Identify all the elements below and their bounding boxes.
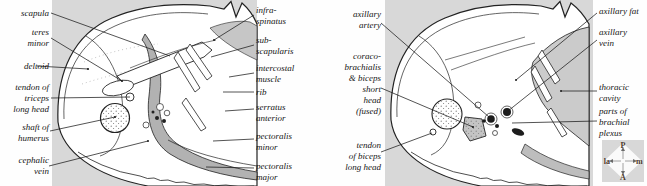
label-axillary-vein: axillary vein	[599, 27, 647, 49]
compass-posterior-label: P	[621, 141, 626, 150]
label-brachial-plexus: parts of brachial plexus	[599, 106, 647, 139]
biceps-tendon-section	[430, 129, 436, 135]
label-coracobrachialis: coraco- brachialis & biceps short head (…	[298, 51, 381, 117]
plexus-part-2	[495, 124, 499, 128]
panel-left-illustration	[52, 0, 257, 186]
compass-anterior-label: A	[620, 173, 626, 182]
plexus-part-3	[482, 119, 486, 123]
label-axillary-fat: axillary fat	[599, 6, 647, 17]
figure-axilla-cross-sections: P A la m scapula teres minor deltoid ten…	[0, 0, 647, 186]
label-teres-minor: teres minor	[0, 27, 49, 49]
label-cephalic-vein: cephalic vein	[0, 155, 49, 177]
compass-lateral-label: la	[604, 157, 610, 166]
label-tendon-of-biceps: tendon of biceps long head	[298, 140, 381, 173]
humerus-stipple	[433, 100, 461, 128]
label-shaft-of-humerus: shaft of humerus	[0, 122, 49, 144]
label-axillary-artery: axillary artery	[298, 9, 381, 31]
label-tendon-of-triceps: tendon of triceps long head	[0, 82, 49, 115]
label-scapula: scapula	[0, 8, 49, 19]
label-deltoid: deltoid	[0, 61, 49, 72]
panel-right-illustration	[385, 0, 593, 186]
compass-medial-label: m	[636, 157, 643, 166]
label-thoracic-cavity: thoracic cavity	[599, 82, 647, 104]
orientation-compass: P A la m	[602, 140, 644, 182]
